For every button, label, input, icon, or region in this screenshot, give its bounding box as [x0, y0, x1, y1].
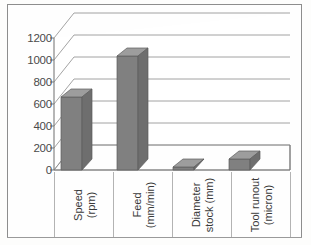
y-tick-label-600: 600 [6, 98, 52, 110]
bar-diameter-stock-front [173, 167, 194, 170]
y-tick-label-400: 400 [6, 120, 52, 132]
category-label-speed-line1: Speed [72, 189, 84, 221]
category-cell-speed[interactable]: Speed (rpm) [54, 172, 113, 238]
bar-feed[interactable] [117, 48, 148, 170]
category-label-feed-line2: (mm/min) [143, 182, 156, 228]
category-label-diameter-stock-line2: stock (mm) [202, 178, 215, 232]
category-axis-bottom-rule [7, 237, 302, 238]
y-tick-label-1000: 1000 [6, 54, 52, 66]
category-label-feed-line1: Feed [131, 192, 143, 217]
bar-feed-side [138, 48, 148, 170]
bar-speed-side [82, 89, 92, 170]
bar-speed[interactable] [61, 89, 92, 170]
category-label-diameter-stock: Diameter stock (mm) [190, 178, 215, 232]
category-cell-tool-runout[interactable]: Tool runout (micron) [231, 172, 291, 238]
category-label-feed: Feed (mm/min) [131, 182, 156, 228]
y-axis-labels: 1200 1000 800 600 400 200 0 [6, 0, 52, 245]
gridline-depth-1200 [54, 13, 74, 38]
category-label-tool-runout-line1: Tool runout [249, 178, 261, 232]
bar-speed-front [61, 97, 82, 170]
category-label-tool-runout-line2: (micron) [261, 178, 274, 232]
x-axis-category-labels: Speed (rpm) Feed (mm/min) Diameter stock… [54, 172, 291, 238]
y-tick-label-1200: 1200 [6, 32, 52, 44]
category-label-speed-line2: (rpm) [84, 189, 97, 221]
y-tick-label-800: 800 [6, 76, 52, 88]
bar-feed-front [117, 56, 138, 170]
category-label-diameter-stock-line1: Diameter [190, 183, 202, 228]
y-tick-label-0: 0 [6, 164, 52, 176]
category-cell-feed[interactable]: Feed (mm/min) [113, 172, 172, 238]
category-cell-diameter-stock[interactable]: Diameter stock (mm) [172, 172, 231, 238]
category-label-speed: Speed (rpm) [72, 189, 97, 221]
y-tick-label-200: 200 [6, 142, 52, 154]
bar-tool-runout-front [229, 159, 250, 170]
category-label-tool-runout: Tool runout (micron) [249, 178, 274, 232]
